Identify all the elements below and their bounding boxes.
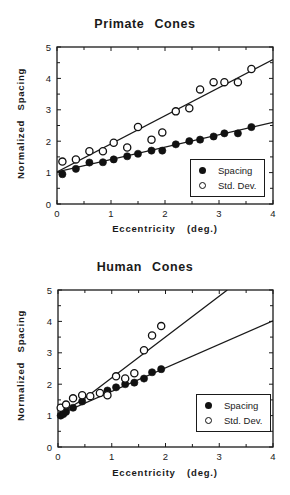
stddev-point (96, 389, 103, 396)
spacing-point (148, 369, 155, 376)
spacing-point (99, 159, 106, 166)
stddev-point (140, 347, 147, 354)
y-tick-label: 5 (46, 42, 51, 53)
spacing-point (72, 165, 79, 172)
primate-cones-figure: Primate Cones Normalized Spacing 0123401… (0, 0, 290, 245)
x-tick-label: 2 (163, 451, 168, 462)
legend-label: Spacing (224, 400, 258, 411)
y-tick-label: 1 (47, 410, 52, 421)
stddev-point (172, 108, 179, 115)
y-tick-label: 3 (47, 347, 52, 358)
spacing-point (140, 375, 147, 382)
plot-area: 01234012345 (0, 0, 290, 245)
stddev-point (131, 370, 138, 377)
x-tick-label: 1 (108, 208, 113, 219)
filled-circle-icon (205, 402, 212, 409)
stddev-point (158, 323, 165, 330)
legend-label: Std. Dev. (224, 415, 262, 426)
x-tick-label: 3 (216, 208, 221, 219)
legend: Spacing Std. Dev. (196, 394, 271, 432)
spacing-point (134, 150, 141, 157)
open-circle-icon (205, 417, 212, 424)
legend-label: Spacing (218, 165, 252, 176)
spacing-point (248, 123, 255, 130)
spacing-point (158, 366, 165, 373)
stddev-point (186, 105, 193, 112)
stddev-point (148, 136, 155, 143)
stddev-point (87, 393, 94, 400)
y-tick-label: 4 (47, 316, 52, 327)
x-tick-label: 4 (270, 451, 275, 462)
spacing-point (131, 379, 138, 386)
x-tick-label: 0 (55, 451, 60, 462)
legend-item-spacing: Spacing (205, 398, 262, 413)
x-axis-label: Eccentricity (deg.) (57, 223, 273, 234)
human-cones-figure: Human Cones Normalized Spacing 012340123… (0, 245, 290, 495)
y-tick-label: 0 (47, 442, 52, 453)
x-tick-label: 1 (109, 451, 114, 462)
stddev-point (59, 158, 66, 165)
legend-item-stddev: Std. Dev. (205, 413, 262, 428)
spacing-point (124, 153, 131, 160)
stddev-point (210, 79, 217, 86)
plot-area: 01234012345 (0, 245, 290, 495)
y-tick-label: 2 (46, 136, 51, 147)
y-tick-label: 2 (47, 379, 52, 390)
legend-item-spacing: Spacing (199, 163, 256, 178)
stddev-point (221, 79, 228, 86)
stddev-point (124, 144, 131, 151)
spacing-point (186, 138, 193, 145)
stddev-point (62, 401, 69, 408)
stddev-point (112, 373, 119, 380)
spacing-point (221, 130, 228, 137)
spacing-point (234, 130, 241, 137)
stddev-point (159, 129, 166, 136)
spacing-point (172, 141, 179, 148)
filled-circle-icon (199, 167, 206, 174)
stddev-point (99, 148, 106, 155)
spacing-point (110, 156, 117, 163)
x-tick-label: 4 (270, 208, 275, 219)
spacing-point (210, 133, 217, 140)
stddev-point (197, 86, 204, 93)
legend-label: Std. Dev. (218, 180, 256, 191)
stddev-point (122, 375, 129, 382)
y-tick-label: 3 (46, 104, 51, 115)
x-axis-label: Eccentricity (deg.) (57, 467, 273, 478)
x-tick-label: 3 (217, 451, 222, 462)
y-tick-label: 4 (46, 73, 51, 84)
x-tick-label: 2 (162, 208, 167, 219)
stddev-point (148, 332, 155, 339)
legend-item-stddev: Std. Dev. (199, 178, 256, 193)
stddev-point (69, 395, 76, 402)
stddev-point (110, 139, 117, 146)
y-tick-label: 0 (46, 199, 51, 210)
stddev-point (72, 156, 79, 163)
stddev-point (248, 65, 255, 72)
stddev-point (134, 123, 141, 130)
spacing-point (59, 171, 66, 178)
stddev-point (79, 392, 86, 399)
x-tick-label: 0 (54, 208, 59, 219)
spacing-point (159, 147, 166, 154)
spacing-point (148, 147, 155, 154)
spacing-point (112, 384, 119, 391)
spacing-point (86, 159, 93, 166)
stddev-point (104, 392, 111, 399)
y-tick-label: 5 (47, 285, 52, 296)
legend: Spacing Std. Dev. (190, 159, 265, 197)
spacing-point (69, 404, 76, 411)
stddev-point (86, 148, 93, 155)
y-tick-label: 1 (46, 167, 51, 178)
open-circle-icon (199, 182, 206, 189)
stddev-point (234, 79, 241, 86)
spacing-point (197, 136, 204, 143)
